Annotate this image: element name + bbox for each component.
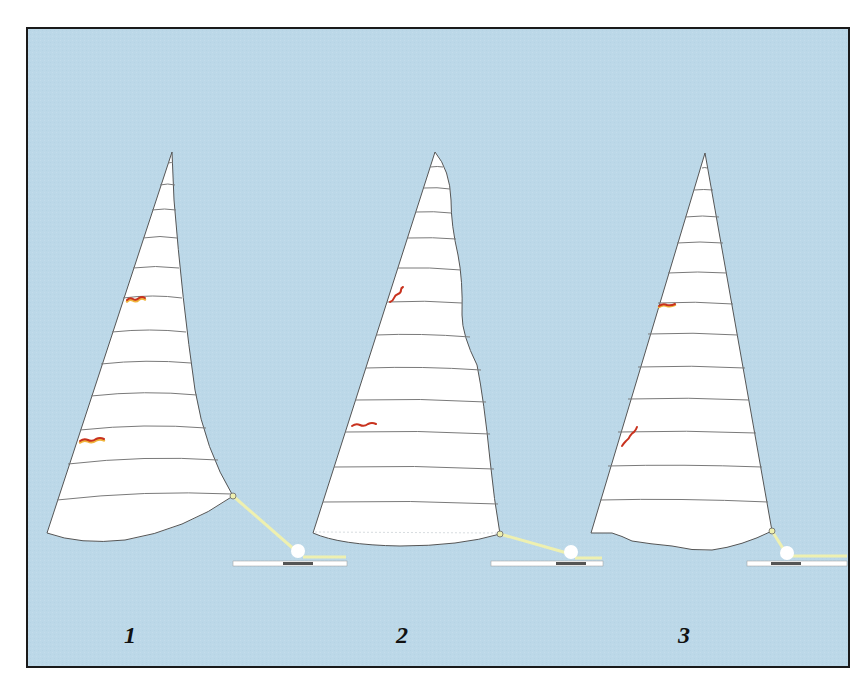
sail-1-label: 1 xyxy=(124,622,136,648)
sail-trim-diagram: 1 2 3 xyxy=(0,0,862,690)
sail-3-label: 3 xyxy=(677,622,690,648)
sail-1-block xyxy=(291,544,305,558)
sail-3-telltale-upper xyxy=(659,304,675,307)
sail-3-clew-ring xyxy=(769,528,775,534)
sail-3-block xyxy=(780,546,794,560)
sail-3-track-car xyxy=(771,562,801,565)
sail-1-clew-ring xyxy=(230,493,236,499)
sail-2-track xyxy=(491,561,603,566)
sail-2-label: 2 xyxy=(395,622,408,648)
sail-2-clew-ring xyxy=(497,531,503,537)
sail-2-block xyxy=(564,545,578,559)
sail-2-track-car xyxy=(556,562,586,565)
sail-1-track-car xyxy=(283,562,313,565)
